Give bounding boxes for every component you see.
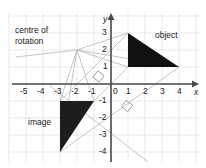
y-tick-label--4: -4 [99,146,107,156]
y-tick-label-1: 1 [103,61,108,71]
x-tick-label-1: 1 [126,86,131,96]
origin-tick-label: 0 [113,86,118,96]
right-angle-mark-upper [93,71,104,82]
y-tick-label-2: 2 [102,44,107,54]
right-angle-mark-lower [121,100,132,111]
x-tick-label--5: -5 [20,86,28,96]
y-tick-label--2: -2 [99,112,107,122]
y-tick-label-3: 3 [102,27,107,37]
x-tick-label-4: 4 [177,86,182,96]
centre-of-rotation-label-line1: centre of [15,25,48,35]
centre-of-rotation-label-line2: rotation [15,36,43,46]
x-tick-label-3: 3 [160,86,165,96]
y-tick-label--3: -3 [99,129,107,139]
object-label: object [155,30,178,40]
x-tick-label--4: -4 [37,86,45,96]
y-tick-label--1: -1 [99,95,107,105]
x-tick-label--2: -2 [71,86,79,96]
x-tick-label-2: 2 [143,86,148,96]
image-label: image [28,117,51,127]
y-axis-label: y [103,14,107,24]
x-tick-label--3: -3 [54,86,62,96]
x-tick-label--1: -1 [88,86,96,96]
x-axis-label: x [194,87,198,97]
geometry-figure-canvas: centre of rotation object image y x 0 -5… [0,0,206,168]
